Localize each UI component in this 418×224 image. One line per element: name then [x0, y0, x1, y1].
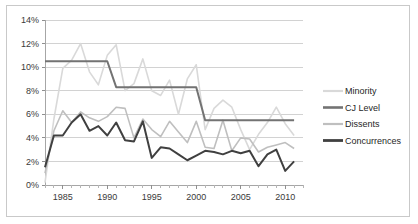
y-axis-tick-label: 2% — [26, 157, 39, 167]
gridlines-group — [45, 20, 303, 161]
line-chart: 0%2%4%6%8%10%12%14% 19851990199520002005… — [7, 6, 411, 218]
y-axis-tick-label: 0% — [26, 180, 39, 190]
x-axis-tick-label: 1990 — [97, 192, 117, 202]
legend-label-minority: Minority — [345, 86, 377, 96]
legend-label-cj-level: CJ Level — [345, 103, 380, 113]
x-axis-tick-label: 2000 — [186, 192, 206, 202]
y-axis-tick-label: 14% — [21, 15, 39, 25]
legend-label-dissents: Dissents — [345, 119, 380, 129]
y-axis-tick-label: 10% — [21, 62, 39, 72]
y-axis-tick-label: 4% — [26, 133, 39, 143]
x-axis-tick-label: 2010 — [275, 192, 295, 202]
chart-frame: 0%2%4%6%8%10%12%14% 19851990199520002005… — [6, 5, 410, 217]
y-axis: 0%2%4%6%8%10%12%14% — [21, 15, 45, 190]
x-axis: 198519901995200020052010 — [45, 185, 303, 202]
x-axis-tick-label: 1995 — [142, 192, 162, 202]
legend-label-concurrences: Concurrences — [345, 136, 402, 146]
chart-legend: MinorityCJ LevelDissentsConcurrences — [323, 86, 402, 145]
x-axis-tick-label: 2005 — [231, 192, 251, 202]
x-axis-tick-label: 1985 — [53, 192, 73, 202]
y-axis-tick-label: 8% — [26, 86, 39, 96]
chart-plot-wrapper: 0%2%4%6%8%10%12%14% 19851990199520002005… — [7, 6, 411, 218]
y-axis-tick-label: 6% — [26, 109, 39, 119]
y-axis-tick-label: 12% — [21, 39, 39, 49]
